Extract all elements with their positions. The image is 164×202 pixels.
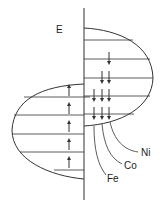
band-diagram: E Ni Co Fe	[0, 0, 164, 202]
spin-up-band-curve	[12, 84, 84, 179]
energy-axis-label: E	[56, 24, 63, 35]
label-ni: Ni	[141, 147, 150, 158]
spin-up-levels	[12, 97, 90, 170]
label-fe: Fe	[107, 173, 119, 184]
spin-down-arrows	[94, 52, 109, 118]
label-co: Co	[124, 160, 137, 171]
